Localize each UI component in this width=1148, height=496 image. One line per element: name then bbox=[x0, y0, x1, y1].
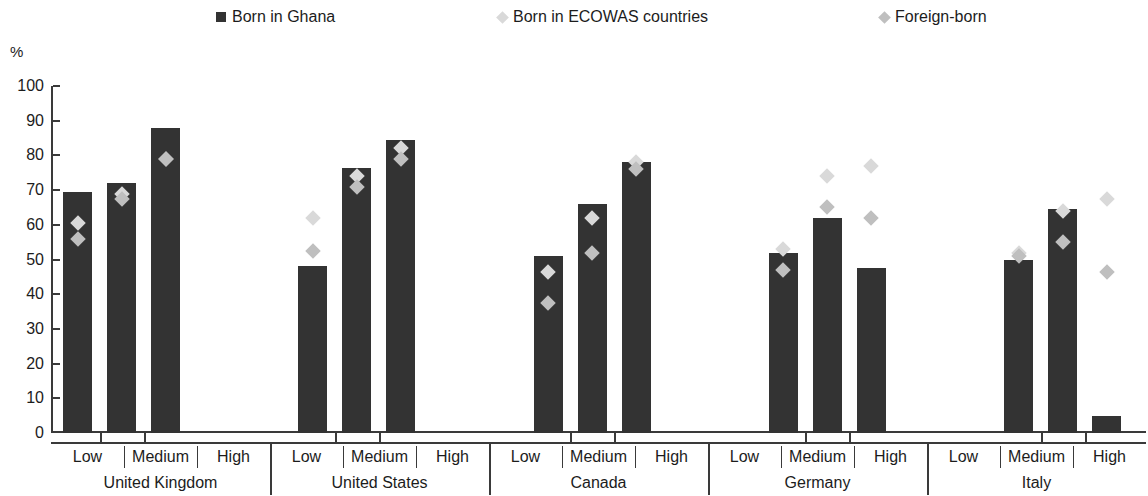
y-axis-tick-label: 80 bbox=[0, 147, 44, 163]
chart-legend: Born in Ghana Born in ECOWAS countries F… bbox=[0, 0, 1148, 40]
x-axis-cell-divider bbox=[197, 446, 198, 468]
x-axis-cell-divider bbox=[1073, 446, 1074, 468]
x-axis-tick-mark bbox=[1041, 433, 1043, 442]
x-axis-group-divider bbox=[489, 444, 491, 495]
x-axis-country-label: United States bbox=[270, 470, 489, 496]
x-axis-level-label: Low bbox=[270, 444, 343, 470]
y-axis-tick-mark bbox=[53, 189, 60, 191]
x-axis-level-label: Low bbox=[927, 444, 1000, 470]
x-axis-cell-divider bbox=[124, 446, 125, 468]
bar[interactable] bbox=[298, 266, 327, 433]
x-axis-country-row: United KingdomUnited StatesCanadaGermany… bbox=[51, 470, 1146, 496]
legend-label: Born in Ghana bbox=[232, 8, 335, 26]
data-point-marker[interactable] bbox=[305, 243, 321, 259]
legend-item-foreign-born[interactable]: Foreign-born bbox=[880, 8, 987, 26]
y-axis-tick-mark bbox=[53, 120, 60, 122]
plot-area: % 0102030405060708090100 bbox=[0, 40, 1148, 493]
x-axis-tick-mark bbox=[100, 433, 102, 442]
bar[interactable] bbox=[578, 204, 607, 433]
x-axis-cell-divider bbox=[1000, 446, 1001, 468]
x-axis-cell-divider bbox=[562, 446, 563, 468]
x-axis-cell-divider bbox=[343, 446, 344, 468]
y-axis-tick-mark bbox=[53, 259, 60, 261]
legend-swatch-diamond-icon bbox=[496, 11, 509, 24]
x-axis-cell-divider bbox=[781, 446, 782, 468]
bar[interactable] bbox=[1092, 416, 1121, 433]
x-axis-country-label: Canada bbox=[489, 470, 708, 496]
legend-item-born-in-ecowas-countries[interactable]: Born in ECOWAS countries bbox=[498, 8, 708, 26]
x-axis-cell-divider bbox=[854, 446, 855, 468]
x-axis-group-divider bbox=[927, 444, 929, 495]
y-axis-tick-label: 90 bbox=[0, 113, 44, 129]
y-axis-tick-label: 60 bbox=[0, 217, 44, 233]
y-axis-tick-label: 40 bbox=[0, 286, 44, 302]
y-axis-tick-mark bbox=[53, 293, 60, 295]
y-axis-tick-label: 10 bbox=[0, 390, 44, 406]
legend-label: Born in ECOWAS countries bbox=[513, 8, 708, 26]
data-point-marker[interactable] bbox=[305, 210, 321, 226]
y-axis-tick-mark bbox=[53, 397, 60, 399]
data-point-marker[interactable] bbox=[819, 200, 835, 216]
x-axis-level-label: High bbox=[197, 444, 270, 470]
x-axis-level-label: High bbox=[635, 444, 708, 470]
x-axis-country-label: United Kingdom bbox=[51, 470, 270, 496]
x-axis-level-label: High bbox=[416, 444, 489, 470]
x-axis-level-label: Medium bbox=[124, 444, 197, 470]
bar[interactable] bbox=[622, 162, 651, 433]
y-axis-tick-mark bbox=[53, 328, 60, 330]
x-axis-country-label: Italy bbox=[927, 470, 1146, 496]
x-axis-group-divider bbox=[270, 444, 272, 495]
bar[interactable] bbox=[151, 128, 180, 433]
x-axis-level-label: High bbox=[1073, 444, 1146, 470]
bars-and-markers-layer bbox=[53, 86, 1146, 433]
x-axis-level-label: Medium bbox=[1000, 444, 1073, 470]
legend-label: Foreign-born bbox=[895, 8, 987, 26]
x-axis-country-label: Germany bbox=[708, 470, 927, 496]
legend-item-born-in-ghana[interactable]: Born in Ghana bbox=[216, 8, 335, 26]
x-axis-tick-mark bbox=[570, 433, 572, 442]
y-axis-tick-mark bbox=[53, 363, 60, 365]
y-axis-tick-label: 50 bbox=[0, 252, 44, 268]
x-axis-level-label: Medium bbox=[343, 444, 416, 470]
x-axis-tick-mark bbox=[849, 433, 851, 442]
bar[interactable] bbox=[1004, 260, 1033, 434]
data-point-marker[interactable] bbox=[819, 168, 835, 184]
data-point-marker[interactable] bbox=[1099, 191, 1115, 207]
x-axis-level-label: High bbox=[854, 444, 927, 470]
x-axis-tick-mark bbox=[335, 433, 337, 442]
y-axis-tick-labels: 0102030405060708090100 bbox=[0, 40, 44, 433]
x-axis-level-label: Low bbox=[489, 444, 562, 470]
data-point-marker[interactable] bbox=[1099, 264, 1115, 280]
x-axis-level-label: Medium bbox=[781, 444, 854, 470]
y-axis-tick-label: 0 bbox=[0, 425, 44, 441]
x-axis-tick-mark bbox=[379, 433, 381, 442]
y-axis-tick-label: 30 bbox=[0, 321, 44, 337]
x-axis-group-divider bbox=[708, 444, 710, 495]
y-axis-tick-label: 100 bbox=[0, 78, 44, 94]
bar[interactable] bbox=[534, 256, 563, 433]
data-point-marker[interactable] bbox=[863, 158, 879, 174]
x-axis-level-label: Low bbox=[708, 444, 781, 470]
data-point-marker[interactable] bbox=[863, 210, 879, 226]
bar[interactable] bbox=[813, 218, 842, 433]
y-axis-tick-mark bbox=[53, 224, 60, 226]
x-axis-tick-mark bbox=[805, 433, 807, 442]
bar[interactable] bbox=[857, 268, 886, 433]
x-axis-education-level-row: LowMediumHighLowMediumHighLowMediumHighL… bbox=[51, 444, 1146, 470]
y-axis-tick-mark bbox=[53, 154, 60, 156]
legend-swatch-square-icon bbox=[216, 12, 226, 22]
bar[interactable] bbox=[769, 253, 798, 433]
bar[interactable] bbox=[107, 183, 136, 433]
bar[interactable] bbox=[386, 140, 415, 433]
y-axis-tick-mark bbox=[53, 85, 60, 87]
x-axis-level-label: Medium bbox=[562, 444, 635, 470]
x-axis-cell-divider bbox=[416, 446, 417, 468]
bar[interactable] bbox=[342, 168, 371, 433]
legend-swatch-diamond-icon bbox=[878, 11, 891, 24]
x-axis-cell-divider bbox=[635, 446, 636, 468]
y-axis-tick-label: 70 bbox=[0, 182, 44, 198]
x-axis-tick-mark bbox=[614, 433, 616, 442]
x-axis-tick-mark bbox=[1085, 433, 1087, 442]
y-axis-tick-label: 20 bbox=[0, 356, 44, 372]
